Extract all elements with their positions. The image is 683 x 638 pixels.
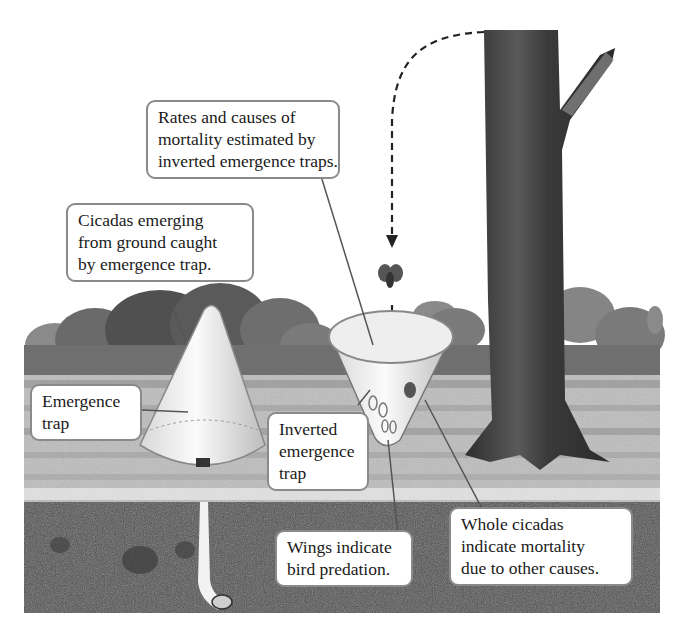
callout-mortality-rates: Rates and causes of mortality estimated … [146, 100, 340, 179]
callout-line: Rates and causes of [158, 106, 328, 128]
callout-line: from ground caught [78, 231, 242, 253]
arrowhead-icon [386, 235, 398, 248]
cicada-trap-diagram: Rates and causes of mortality estimated … [0, 0, 683, 638]
callout-line: Whole cicadas [461, 513, 621, 535]
callout-line: trap [42, 412, 130, 434]
callout-line: indicate mortality [461, 535, 621, 557]
callout-line: inverted emergence traps. [158, 150, 328, 172]
callout-line: Emergence [42, 390, 130, 412]
callout-emergence-trap: Emergence trap [30, 384, 142, 441]
callout-line: Inverted [279, 418, 357, 440]
whole-cicada-icon [404, 382, 416, 398]
callout-line: Cicadas emerging [78, 209, 242, 231]
nymph-in-burrow [212, 595, 232, 609]
callout-cicadas-emerging: Cicadas emerging from ground caught by e… [66, 203, 254, 282]
callout-whole-cicadas: Whole cicadas indicate mortality due to … [449, 507, 633, 586]
falling-cicada [378, 264, 403, 288]
callout-line: due to other causes. [461, 557, 621, 579]
callout-line: trap [279, 462, 357, 484]
callout-line: Wings indicate [287, 536, 401, 558]
callout-inverted-trap: Inverted emergence trap [267, 412, 369, 491]
callout-wings: Wings indicate bird predation. [275, 530, 413, 587]
callout-line: by emergence trap. [78, 253, 242, 275]
callout-line: mortality estimated by [158, 128, 328, 150]
callout-line: bird predation. [287, 558, 401, 580]
callout-line: emergence [279, 440, 357, 462]
